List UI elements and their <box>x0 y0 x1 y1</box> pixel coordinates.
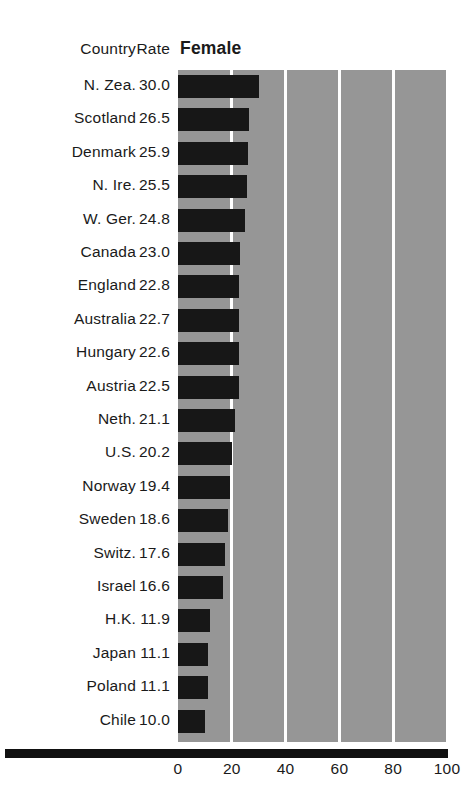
table-row: Israel16.6 <box>0 571 465 604</box>
table-row: Switz.17.6 <box>0 538 465 571</box>
column-header-country: Country <box>26 40 136 58</box>
row-country-label: Japan <box>16 644 136 662</box>
row-rate-value: 25.5 <box>124 176 170 194</box>
bar <box>178 309 239 332</box>
row-country-label: U.S. <box>16 443 136 461</box>
row-rate-value: 19.4 <box>124 477 170 495</box>
row-country-label: W. Ger. <box>16 210 136 228</box>
row-country-label: Neth. <box>16 410 136 428</box>
row-country-label: Sweden <box>16 510 136 528</box>
row-rate-value: 26.5 <box>124 109 170 127</box>
table-row: Chile10.0 <box>0 705 465 738</box>
row-rate-value: 21.1 <box>124 410 170 428</box>
row-country-label: Switz. <box>16 544 136 562</box>
bar-rows: N. Zea.30.0Scotland26.5Denmark25.9N. Ire… <box>0 70 465 742</box>
table-row: H.K.11.9 <box>0 604 465 637</box>
row-country-label: Poland <box>16 677 136 695</box>
row-rate-value: 23.0 <box>124 243 170 261</box>
bar <box>178 442 232 465</box>
x-tick-label-20: 20 <box>223 760 241 778</box>
table-row: W. Ger.24.8 <box>0 204 465 237</box>
row-country-label: Austria <box>16 377 136 395</box>
chart-container: Country Rate Female N. Zea.30.0Scotland2… <box>0 0 465 793</box>
row-country-label: England <box>16 276 136 294</box>
bar <box>178 476 230 499</box>
table-row: Neth.21.1 <box>0 404 465 437</box>
table-row: Japan11.1 <box>0 638 465 671</box>
table-row: Norway19.4 <box>0 471 465 504</box>
row-rate-value: 10.0 <box>124 711 170 729</box>
chart-title: Female <box>180 38 242 59</box>
row-rate-value: 22.6 <box>124 343 170 361</box>
bar <box>178 576 223 599</box>
row-country-label: N. Zea. <box>16 76 136 94</box>
row-country-label: Canada <box>16 243 136 261</box>
row-country-label: H.K. <box>16 610 136 628</box>
row-rate-value: 17.6 <box>124 544 170 562</box>
row-country-label: Norway <box>16 477 136 495</box>
row-rate-value: 22.7 <box>124 310 170 328</box>
column-header-rate: Rate <box>124 40 170 58</box>
table-row: Sweden18.6 <box>0 504 465 537</box>
x-axis-tick-labels: 020406080100 <box>0 760 465 786</box>
table-row: Poland11.1 <box>0 671 465 704</box>
bar <box>178 142 248 165</box>
x-tick-label-0: 0 <box>174 760 183 778</box>
row-rate-value: 20.2 <box>124 443 170 461</box>
table-row: Austria22.5 <box>0 371 465 404</box>
table-row: U.S.20.2 <box>0 437 465 470</box>
row-rate-value: 11.1 <box>124 677 170 695</box>
row-country-label: N. Ire. <box>16 176 136 194</box>
bar <box>178 175 247 198</box>
table-row: N. Ire.25.5 <box>0 170 465 203</box>
bar <box>178 409 235 432</box>
x-tick-label-40: 40 <box>277 760 295 778</box>
row-country-label: Denmark <box>16 143 136 161</box>
table-row: Australia22.7 <box>0 304 465 337</box>
x-tick-label-80: 80 <box>384 760 402 778</box>
row-country-label: Scotland <box>16 109 136 127</box>
table-row: Hungary22.6 <box>0 337 465 370</box>
bar <box>178 676 208 699</box>
row-country-label: Chile <box>16 711 136 729</box>
row-rate-value: 11.1 <box>124 644 170 662</box>
axis-baseline-rule <box>5 749 448 758</box>
bar <box>178 75 259 98</box>
bar <box>178 342 239 365</box>
bar <box>178 643 208 666</box>
bar <box>178 710 205 733</box>
bar <box>178 543 225 566</box>
bar <box>178 509 228 532</box>
table-row: N. Zea.30.0 <box>0 70 465 103</box>
row-country-label: Israel <box>16 577 136 595</box>
row-country-label: Australia <box>16 310 136 328</box>
x-tick-label-60: 60 <box>331 760 349 778</box>
bar <box>178 275 239 298</box>
bar <box>178 209 245 232</box>
row-rate-value: 30.0 <box>124 76 170 94</box>
row-rate-value: 22.8 <box>124 276 170 294</box>
row-country-label: Hungary <box>16 343 136 361</box>
row-rate-value: 25.9 <box>124 143 170 161</box>
table-row: Canada23.0 <box>0 237 465 270</box>
row-rate-value: 22.5 <box>124 377 170 395</box>
row-rate-value: 16.6 <box>124 577 170 595</box>
table-row: Scotland26.5 <box>0 103 465 136</box>
row-rate-value: 11.9 <box>124 610 170 628</box>
table-row: Denmark25.9 <box>0 137 465 170</box>
bar <box>178 108 249 131</box>
x-tick-label-100: 100 <box>434 760 460 778</box>
row-rate-value: 18.6 <box>124 510 170 528</box>
table-header-row: Country Rate Female <box>0 40 465 66</box>
bar <box>178 242 240 265</box>
bar <box>178 609 210 632</box>
table-row: England22.8 <box>0 270 465 303</box>
row-rate-value: 24.8 <box>124 210 170 228</box>
bar <box>178 376 239 399</box>
